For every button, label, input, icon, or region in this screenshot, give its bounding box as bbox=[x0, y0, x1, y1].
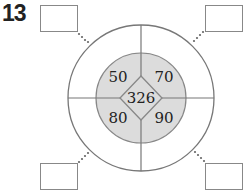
quadrant-top-left-value: 50 bbox=[108, 68, 127, 86]
connector-top-right bbox=[193, 31, 204, 42]
answer-box-bottom-left[interactable] bbox=[41, 164, 78, 190]
quadrant-top-right-value: 70 bbox=[154, 68, 173, 86]
quadrant-bottom-left-value: 80 bbox=[108, 109, 127, 127]
answer-box-top-left[interactable] bbox=[41, 6, 78, 32]
center-value: 326 bbox=[127, 89, 156, 107]
circle-diagram: 50 70 80 90 326 bbox=[0, 0, 250, 195]
quadrant-bottom-right-value: 90 bbox=[154, 109, 173, 127]
connector-top-left bbox=[78, 33, 89, 43]
connector-bottom-right bbox=[194, 151, 205, 162]
answer-box-top-right[interactable] bbox=[206, 6, 243, 32]
connector-bottom-left bbox=[78, 152, 89, 163]
answer-box-bottom-right[interactable] bbox=[206, 164, 243, 190]
